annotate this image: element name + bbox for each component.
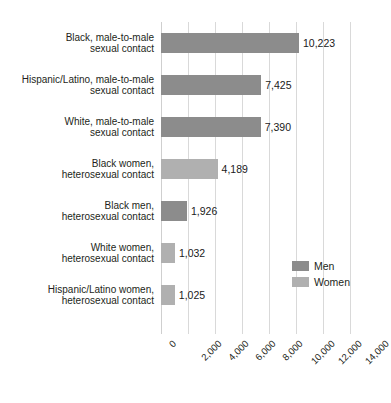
x-tick-label: 4,000 xyxy=(226,338,251,363)
legend-item-women: Women xyxy=(292,275,350,288)
bar-men xyxy=(161,201,187,221)
legend-label-men: Men xyxy=(314,260,334,272)
bar-women xyxy=(161,159,218,179)
bar-men xyxy=(161,33,299,53)
bar-value-label: 4,189 xyxy=(218,159,248,179)
category-label: Black, male-to-male sexual contact xyxy=(0,32,154,55)
gridline-14000 xyxy=(350,22,351,334)
bar-row: 7,425 xyxy=(161,64,350,106)
bar-women xyxy=(161,243,175,263)
legend-item-men: Men xyxy=(292,259,350,272)
bar-value-label: 7,425 xyxy=(261,75,291,95)
x-tick-label: 2,000 xyxy=(199,338,224,363)
legend-label-women: Women xyxy=(314,276,350,288)
category-label: White, male-to-male sexual contact xyxy=(0,116,154,139)
bar-value-label: 7,390 xyxy=(261,117,291,137)
x-tick-label: 6,000 xyxy=(253,338,278,363)
bar-women xyxy=(161,285,175,305)
x-tick-label: 14,000 xyxy=(363,338,391,366)
bar-row: 10,223 xyxy=(161,22,350,64)
legend: Men Women xyxy=(292,259,350,291)
bar-row: 4,189 xyxy=(161,148,350,190)
legend-swatch-men-icon xyxy=(292,261,309,271)
category-label: White women, heterosexual contact xyxy=(0,242,154,265)
legend-swatch-women-icon xyxy=(292,277,309,287)
bar-row: 1,926 xyxy=(161,190,350,232)
category-label: Hispanic/Latino, male-to-male sexual con… xyxy=(0,74,154,97)
bar-value-label: 1,926 xyxy=(187,201,217,221)
category-label: Black men, heterosexual contact xyxy=(0,200,154,223)
x-tick-label: 10,000 xyxy=(309,338,337,366)
bar-value-label: 10,223 xyxy=(299,33,335,53)
x-tick-label: 12,000 xyxy=(336,338,364,366)
x-tick-label: 8,000 xyxy=(280,338,305,363)
category-label: Black women, heterosexual contact xyxy=(0,158,154,181)
category-label: Hispanic/Latino women, heterosexual cont… xyxy=(0,284,154,307)
bar-value-label: 1,032 xyxy=(175,243,205,263)
bar-men xyxy=(161,117,261,137)
bar-men xyxy=(161,75,261,95)
x-tick-label: 0 xyxy=(167,338,179,350)
bar-value-label: 1,025 xyxy=(175,285,205,305)
bar-row: 7,390 xyxy=(161,106,350,148)
